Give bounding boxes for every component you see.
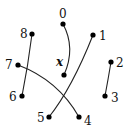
label-8: 8 [20,27,28,41]
node-6 [19,93,24,98]
label-4: 4 [84,114,92,128]
node-5 [46,114,51,119]
node-7 [15,62,20,67]
edge-0-x [63,24,70,75]
node-1 [90,32,95,37]
node-8 [29,31,34,36]
label-x: x [55,55,64,69]
node-0 [60,21,65,26]
label-3: 3 [111,91,119,105]
matching-diagram: 0 x 8 1 7 2 6 3 5 4 [0,0,130,132]
node-2 [108,59,113,64]
label-5: 5 [37,111,45,125]
label-7: 7 [5,58,13,72]
node-3 [102,93,107,98]
edge-8-6 [22,34,32,96]
label-0: 0 [59,7,67,21]
label-6: 6 [9,90,17,104]
node-x [61,72,66,77]
label-1: 1 [99,29,107,43]
label-2: 2 [116,56,124,70]
edge-7-4 [18,65,79,117]
node-4 [76,114,81,119]
